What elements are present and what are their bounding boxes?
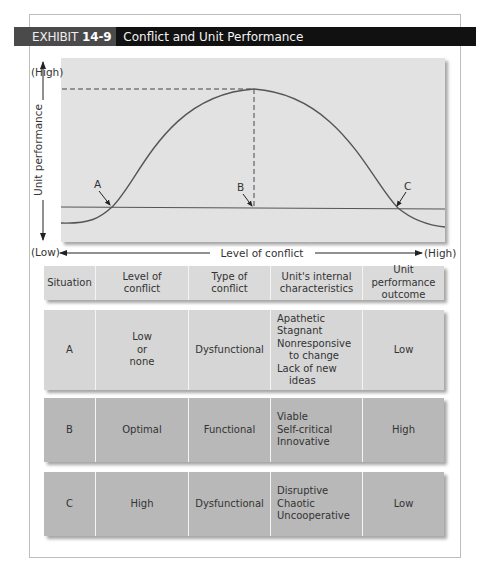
cell-situation: C xyxy=(44,472,96,536)
cell-type: Functional xyxy=(189,398,271,462)
cell-characteristics: Viable Self-critical Innovative xyxy=(271,398,363,462)
cell-outcome: Low xyxy=(363,310,444,390)
table-row-c: C High Dysfunctional Disruptive Chaotic … xyxy=(44,472,444,536)
arrow-c xyxy=(397,192,406,206)
cell-outcome: Low xyxy=(363,472,444,536)
performance-curve xyxy=(61,89,445,227)
cell-type: Dysfunctional xyxy=(189,310,271,390)
cell-characteristics: Disruptive Chaotic Uncooperative xyxy=(271,472,363,536)
header-situation: Situation xyxy=(44,266,96,300)
y-axis-low-label: (Low) xyxy=(31,246,60,258)
table-row-a: A Lowornone Dysfunctional Apathetic Stag… xyxy=(44,310,444,390)
table-row-b: B Optimal Functional Viable Self-critica… xyxy=(44,398,444,462)
table-header-row: Situation Level ofconflict Type ofconfli… xyxy=(44,266,444,300)
y-axis-title: Unit performance xyxy=(32,101,44,199)
y-axis-high-label: (High) xyxy=(31,66,63,78)
x-axis-title: Level of conflict xyxy=(218,247,307,259)
arrow-a xyxy=(99,191,110,205)
cell-characteristics: Apathetic Stagnant Nonresponsive to chan… xyxy=(271,310,363,390)
baseline-line xyxy=(61,207,445,209)
header-outcome: Unit performanceoutcome xyxy=(363,266,444,300)
cell-outcome: High xyxy=(363,398,444,462)
arrow-b xyxy=(243,194,252,206)
cell-type: Dysfunctional xyxy=(189,472,271,536)
cell-level: Optimal xyxy=(96,398,189,462)
header-type: Type ofconflict xyxy=(189,266,271,300)
x-axis-high-label: (High) xyxy=(424,247,456,259)
header-characteristics: Unit's internalcharacteristics xyxy=(271,266,363,300)
point-a-label: A xyxy=(94,178,101,190)
cell-situation: B xyxy=(44,398,96,462)
point-b-label: B xyxy=(237,181,244,193)
point-c-label: C xyxy=(404,180,411,192)
cell-level: High xyxy=(96,472,189,536)
cell-situation: A xyxy=(44,310,96,390)
cell-level: Lowornone xyxy=(96,310,189,390)
header-level: Level ofconflict xyxy=(96,266,189,300)
